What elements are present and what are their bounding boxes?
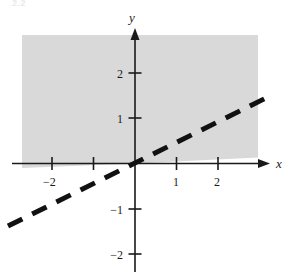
x-tick-label-2: 2 — [214, 175, 220, 189]
y-tick-label--2: −2 — [110, 248, 123, 262]
solution-region-fill — [22, 35, 258, 168]
x-tick-label--2: −2 — [43, 175, 56, 189]
coordinate-plane-plot: y x −2 1 2 2 1 −1 −2 — [0, 0, 291, 280]
x-tick-label-1: 1 — [173, 175, 179, 189]
y-tick-label-2: 2 — [117, 67, 123, 81]
x-axis-label: x — [275, 156, 282, 171]
y-axis-label: y — [127, 10, 135, 25]
x-axis-arrow-icon — [258, 159, 270, 168]
y-tick-label-1: 1 — [117, 112, 123, 126]
solution-region — [22, 35, 258, 168]
y-tick-label--1: −1 — [110, 203, 123, 217]
figure-container: 2.2 — [0, 0, 291, 280]
y-axis-arrow-icon — [131, 28, 140, 40]
